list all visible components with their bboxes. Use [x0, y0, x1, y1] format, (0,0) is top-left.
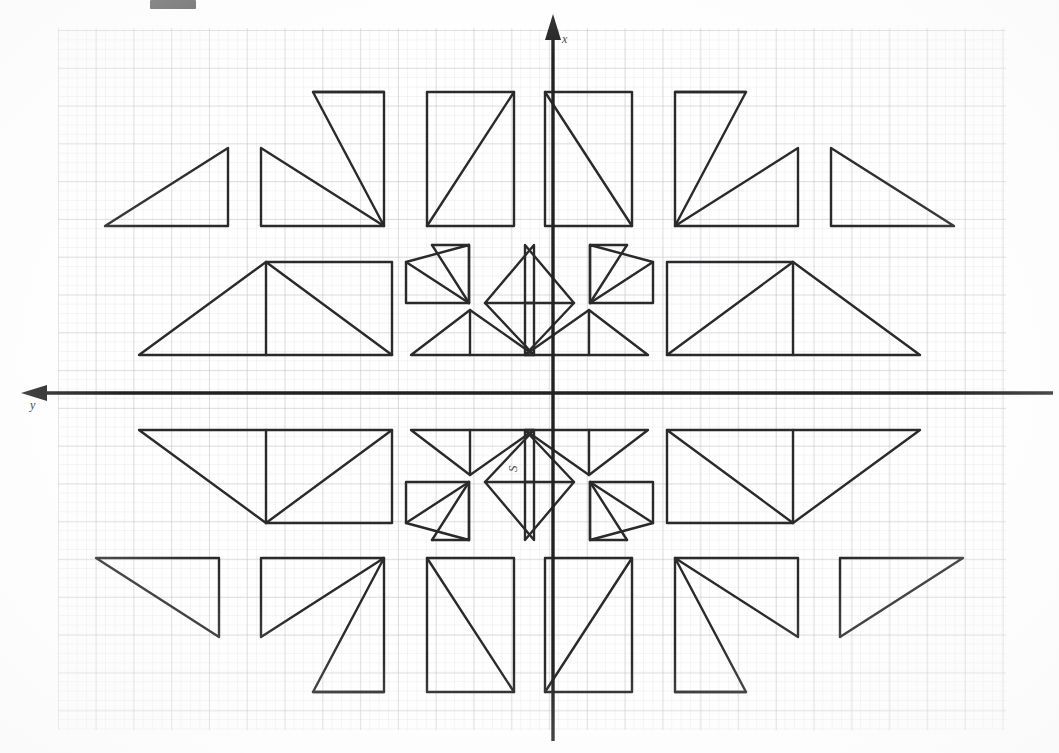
shape-outer-bottom-left-3	[427, 558, 514, 692]
shape-outer-bottom-left-1	[96, 558, 219, 637]
shape-outer-bottom-right-3	[545, 558, 632, 692]
axis-label-x: x	[562, 32, 567, 47]
shape-inner-top-left-tri	[411, 310, 534, 355]
shape-outer-top-right-2	[675, 92, 798, 226]
shape-inner-bottom-left-big	[139, 430, 392, 523]
shape-inner-bottom-right-tri	[525, 430, 648, 475]
shape-outer-top-left-3	[427, 92, 514, 226]
axis-horizontal	[21, 385, 1053, 401]
shape-inner-top-left-big	[139, 262, 392, 355]
shape-outer-bottom-left-2	[261, 558, 384, 692]
shape-outer-top-right-1	[831, 148, 954, 226]
shape-inner-top-right-fan-a	[590, 245, 653, 303]
shape-inner-top-left-fan-a	[406, 245, 469, 303]
annotation-label-s: S	[505, 466, 521, 473]
axis-vertical	[545, 14, 561, 741]
shape-outer-bottom-right-1	[840, 558, 963, 637]
shape-inner-top-right-big	[667, 262, 920, 355]
shape-outer-top-left-2	[261, 92, 384, 226]
shape-inner-bottom-right-fan-a	[590, 482, 653, 540]
scanned-page: x y S	[0, 0, 1059, 753]
shape-inner-top-right-tri	[525, 310, 648, 355]
shape-inner-bottom-right-big	[667, 430, 920, 523]
shape-outer-bottom-right-2	[675, 558, 798, 692]
diagram-drawing	[0, 0, 1059, 753]
shape-outer-top-right-3	[545, 92, 632, 226]
shape-outer-top-left-1	[105, 148, 228, 226]
figure-canvas: x y S	[0, 0, 1059, 753]
shape-inner-bottom-left-fan-a	[406, 482, 469, 540]
axis-label-y: y	[30, 398, 35, 413]
